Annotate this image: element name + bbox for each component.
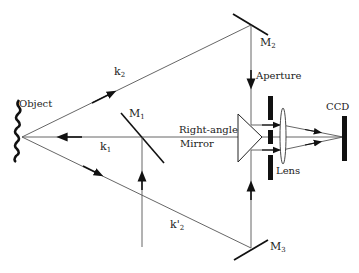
label-lens: Lens	[276, 165, 300, 176]
arrow-lower-ccd	[305, 142, 318, 145]
object-surface	[15, 100, 21, 162]
optical-diagram: Object k2 k1 k'2 M1 M2 M3 Aperture Right…	[0, 0, 359, 273]
label-k2: k2	[114, 65, 125, 79]
ccd-sensor	[342, 116, 347, 161]
label-ccd: CCD	[326, 101, 349, 112]
beam-k2	[22, 25, 251, 137]
beam-k2prime	[22, 137, 251, 248]
label-aperture: Aperture	[255, 70, 302, 81]
arrow-upper-ccd	[305, 130, 318, 133]
aperture	[268, 96, 273, 180]
lens	[280, 108, 286, 164]
arrow-k2prime	[83, 166, 99, 174]
label-m3: M3	[270, 240, 286, 254]
label-right-angle: Right-angle	[179, 124, 238, 135]
mirror-m2	[233, 14, 268, 35]
label-mirror: Mirror	[180, 138, 214, 149]
right-angle-mirror	[238, 114, 262, 162]
arrow-k2	[92, 93, 112, 103]
label-k1: k1	[100, 140, 111, 154]
label-m1: M1	[129, 107, 145, 121]
label-object: Object	[19, 98, 52, 109]
label-m2: M2	[260, 36, 276, 50]
label-k2prime: k'2	[170, 218, 184, 232]
